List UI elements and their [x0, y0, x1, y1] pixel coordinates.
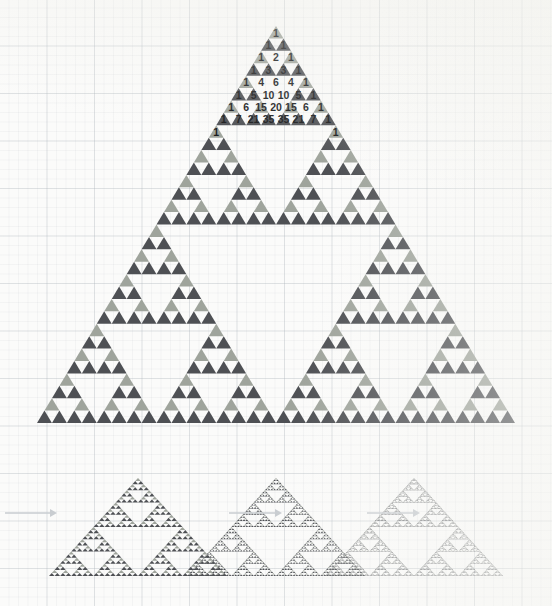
iteration-cell — [427, 518, 428, 519]
iteration-cell — [304, 562, 307, 564]
iteration-cell — [378, 537, 379, 538]
iteration-cell — [453, 535, 454, 536]
iteration-cell — [449, 566, 450, 567]
pascal-cell — [201, 411, 216, 423]
iteration-cell — [493, 565, 494, 566]
iteration-cell — [325, 570, 328, 572]
iteration-cell — [452, 520, 453, 521]
iteration-cell — [442, 509, 443, 510]
iteration-cell — [289, 561, 292, 563]
iteration-cell — [443, 572, 444, 573]
iteration-cell — [387, 507, 388, 508]
iteration-cell — [479, 554, 480, 555]
iteration-cell — [237, 550, 240, 552]
iteration-cell — [474, 558, 475, 559]
iteration-cell — [429, 519, 430, 520]
iteration-cell — [379, 550, 380, 551]
iteration-cell — [340, 571, 341, 572]
iteration-cell — [484, 563, 485, 564]
iteration-cell — [155, 524, 161, 527]
iteration-cell — [386, 575, 387, 576]
iteration-cell — [110, 555, 116, 558]
iteration-cell — [395, 507, 396, 508]
iteration-cell — [384, 550, 385, 551]
iteration-cell — [374, 533, 375, 534]
iteration-cell — [437, 513, 438, 514]
iteration-cell — [465, 568, 466, 569]
iteration-cell — [149, 524, 155, 527]
iteration-cell — [472, 543, 473, 544]
iteration-cell — [478, 551, 479, 552]
iteration-cell — [429, 562, 430, 563]
iteration-cell — [450, 549, 451, 550]
iteration-cell — [230, 527, 233, 529]
iteration-cell — [449, 542, 450, 543]
iteration-cell — [146, 515, 152, 518]
iteration-cell — [245, 522, 248, 524]
iteration-cell — [383, 545, 384, 546]
iteration-cell — [443, 561, 444, 562]
iteration-cell — [351, 557, 352, 558]
iteration-cell — [459, 551, 460, 552]
iteration-cell — [358, 545, 359, 546]
iteration-cell — [237, 571, 240, 573]
iteration-cell — [432, 514, 433, 515]
iteration-cell — [381, 541, 382, 542]
iteration-cell — [329, 544, 332, 546]
iteration-cell — [356, 568, 357, 569]
pascal-cell — [410, 311, 425, 323]
iteration-cell — [96, 533, 102, 536]
iteration-cell — [376, 551, 377, 552]
iteration-cell — [218, 550, 221, 552]
iteration-cell — [354, 571, 355, 572]
iteration-cell — [429, 558, 430, 559]
iteration-cell — [446, 566, 447, 567]
iteration-cell — [177, 573, 183, 576]
iteration-cell — [411, 499, 412, 500]
iteration-cell — [408, 484, 409, 485]
iteration-cell — [409, 522, 410, 523]
pascal-cell — [336, 162, 351, 174]
iteration-cell — [468, 565, 469, 566]
iteration-cell — [412, 501, 413, 502]
iteration-cell — [366, 548, 367, 549]
iteration-cell — [240, 544, 243, 546]
iteration-cell — [497, 570, 498, 571]
iteration-cell — [352, 545, 353, 546]
pascal-number: 7 — [236, 113, 242, 125]
iteration-cell — [329, 571, 330, 572]
iteration-cell — [171, 524, 177, 527]
iteration-cell — [327, 573, 328, 574]
iteration-cell — [270, 522, 273, 524]
iteration-cell — [439, 561, 440, 562]
iteration-cell — [258, 509, 261, 511]
iteration-cell — [388, 572, 389, 573]
iteration-cell — [388, 523, 389, 524]
iteration-cell — [390, 574, 391, 575]
iteration-cell — [403, 496, 404, 497]
iteration-cell — [315, 532, 318, 534]
iteration-cell — [428, 574, 429, 575]
iteration-cell — [482, 557, 483, 558]
iteration-cell — [425, 514, 426, 515]
iteration-cell — [272, 481, 275, 483]
pascal-cell — [186, 187, 201, 199]
iteration-cell — [429, 502, 430, 503]
iteration-cell — [388, 561, 389, 562]
pascal-cell — [112, 311, 127, 323]
iteration-cell — [389, 574, 390, 575]
iteration-cell — [436, 551, 437, 552]
iteration-cell — [388, 524, 389, 525]
iteration-cell — [401, 525, 402, 526]
pascal-cell — [164, 299, 179, 311]
iteration-cell — [461, 538, 462, 539]
iteration-cell — [378, 526, 379, 527]
pascal-cell — [246, 212, 261, 224]
iteration-cell — [379, 516, 380, 517]
iteration-cell — [385, 548, 386, 549]
iteration-cell — [356, 543, 357, 544]
pascal-cell — [201, 336, 216, 348]
iteration-cell — [374, 534, 375, 535]
iteration-cell — [160, 524, 166, 527]
pascal-cell — [231, 411, 246, 423]
